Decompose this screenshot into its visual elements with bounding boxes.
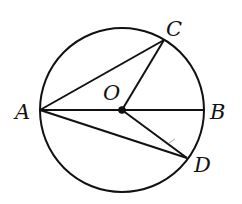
label-C: C <box>166 17 182 41</box>
tick-mark <box>169 139 175 143</box>
radius-OD <box>122 110 187 158</box>
chord-AC <box>40 40 164 110</box>
label-B: B <box>209 100 225 124</box>
geometry-diagram: A B C D O <box>0 0 242 204</box>
label-A: A <box>13 100 30 124</box>
label-D: D <box>193 153 211 177</box>
center-point-O <box>118 106 126 114</box>
label-O: O <box>103 81 120 105</box>
chord-AD <box>40 110 187 158</box>
radius-OC <box>122 40 164 110</box>
